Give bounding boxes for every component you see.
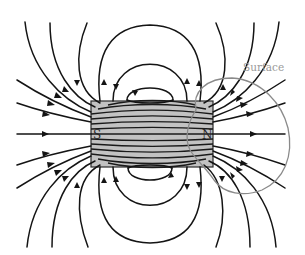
left-lower-fan bbox=[17, 146, 100, 247]
arrow-icon bbox=[74, 182, 80, 188]
arrow-icon bbox=[246, 111, 254, 117]
north-pole-label: N bbox=[202, 128, 213, 142]
arrow-icon bbox=[101, 79, 107, 85]
arrow-icon bbox=[184, 78, 190, 84]
south-pole-label: S bbox=[93, 128, 101, 142]
arrow-icon bbox=[74, 80, 80, 86]
arrow-icon bbox=[184, 184, 190, 190]
arrow-icon bbox=[236, 166, 243, 172]
bottom-loops bbox=[99, 165, 202, 243]
left-upper-fan bbox=[17, 22, 100, 122]
arrow-icon bbox=[62, 86, 69, 92]
arrow-icon bbox=[132, 90, 138, 96]
right-lower-fan bbox=[204, 146, 285, 247]
field-diagram-svg: S N Surface bbox=[0, 0, 305, 255]
arrow-icon bbox=[42, 131, 49, 137]
arrow-icon bbox=[101, 177, 107, 183]
arrow-icon bbox=[219, 176, 225, 182]
arrow-icon bbox=[236, 96, 243, 102]
arrow-icon bbox=[62, 176, 69, 182]
arrow-icon bbox=[246, 151, 254, 157]
magnetic-field-diagram: S N Surface bbox=[0, 0, 305, 255]
top-loops bbox=[99, 25, 202, 103]
arrow-icon bbox=[250, 131, 257, 137]
surface-label: Surface bbox=[243, 61, 284, 73]
